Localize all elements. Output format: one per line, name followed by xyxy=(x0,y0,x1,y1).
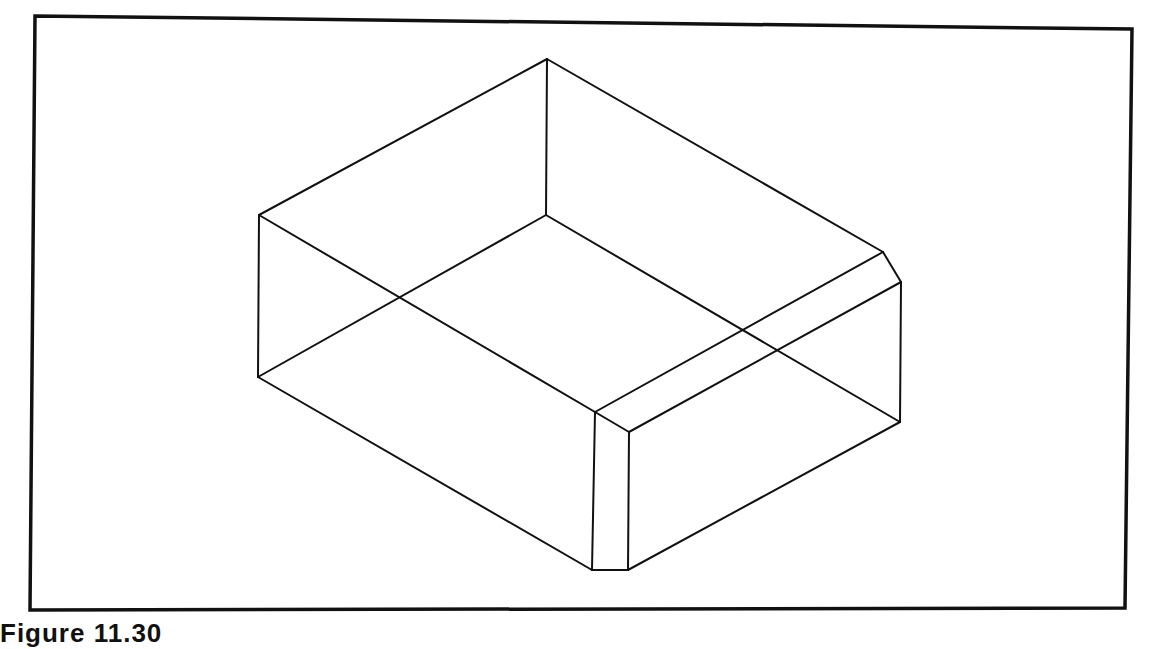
box-edge-top_chamfer_a-top_chamfer_b xyxy=(883,252,901,282)
box-edge-top_left-top_back xyxy=(259,59,547,215)
box-edge-top_back-inner_corner xyxy=(546,59,547,215)
box-edge-top_front_left-top_chamfer_a xyxy=(595,252,883,412)
box-edge-bottom_front_right-bottom_right xyxy=(628,422,900,570)
box-edge-inner_corner-bottom_right xyxy=(546,215,900,422)
box-edge-top_chamfer_b-bottom_right xyxy=(900,282,901,422)
box-edge-bottom_left-bottom_front_left xyxy=(258,377,592,570)
figure-caption: Figure 11.30 xyxy=(0,618,162,649)
box-edge-top_front_right-bottom_front_right xyxy=(628,432,629,570)
box-edge-top_front_right-top_chamfer_b xyxy=(629,282,901,432)
box-edge-top_back-top_chamfer_a xyxy=(547,59,883,252)
box-edge-top_front_left-bottom_front_left xyxy=(592,412,595,570)
box-edge-top_front_left-top_front_right xyxy=(595,412,629,432)
box-edge-top_left-bottom_left xyxy=(258,215,259,377)
box-edge-top_left-top_front_left xyxy=(259,215,595,412)
figure-frame xyxy=(30,16,1132,610)
box-wireframe xyxy=(258,59,901,570)
